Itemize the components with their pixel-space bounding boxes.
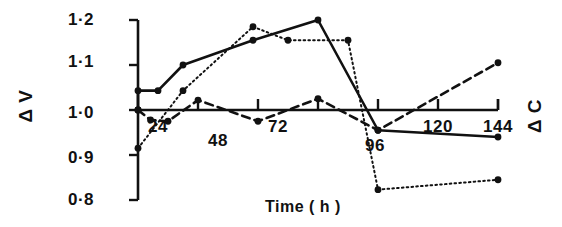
- data-point: [315, 95, 322, 102]
- series-line-solid: [138, 20, 498, 137]
- data-point: [255, 118, 262, 125]
- data-point: [495, 176, 502, 183]
- data-point: [495, 59, 502, 66]
- chart-figure: 1·2 1·1 1·0 0·9 0·8 24 48 72 96 120 144 …: [0, 0, 562, 227]
- data-point: [345, 37, 352, 44]
- data-point: [250, 37, 257, 44]
- data-point: [285, 37, 292, 44]
- data-point: [135, 87, 142, 94]
- data-point: [195, 97, 202, 104]
- data-point: [147, 117, 154, 124]
- data-point: [165, 118, 172, 125]
- chart-plot-area: [0, 0, 562, 227]
- data-point: [375, 186, 382, 193]
- data-point: [250, 23, 257, 30]
- data-point: [135, 107, 142, 114]
- series-solid: [135, 17, 502, 141]
- data-point: [155, 87, 162, 94]
- data-point: [315, 17, 322, 24]
- data-point: [375, 127, 382, 134]
- data-point: [135, 145, 142, 152]
- data-point: [180, 62, 187, 69]
- data-point: [495, 134, 502, 141]
- series-dashed: [135, 59, 502, 133]
- data-point: [180, 87, 187, 94]
